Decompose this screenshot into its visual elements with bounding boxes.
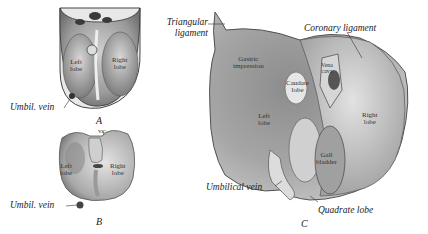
panel-b-letter: B — [96, 217, 102, 227]
panel-a-letter: A — [96, 116, 102, 126]
caudate-line2: lobe — [286, 87, 309, 94]
gall-bladder-label: Gall bladder — [316, 152, 337, 166]
panel-c-letter: C — [301, 219, 308, 229]
panel-b-umbil-vein-label: Umbil. vein — [10, 201, 54, 211]
panel-c-right-lobe-label: Right lobe — [362, 112, 378, 126]
caudate-lobe-label: Caudate lobe — [286, 80, 309, 94]
gastric-impression-label: Gastric impression — [233, 56, 264, 70]
gastric-line2: impression — [233, 63, 264, 70]
panel-a-right-lobe-line2: lobe — [112, 64, 128, 71]
umbilical-vein-label: Umbilical vein — [206, 183, 262, 193]
liver-figure: Left lobe Right lobe Umbil. vein A v.c. … — [0, 0, 428, 234]
triangular-line2: ligament — [152, 29, 208, 39]
gall-line2: bladder — [316, 159, 337, 166]
vena-cava-label: Vena cava — [321, 62, 333, 74]
vena-line2: cava — [321, 68, 333, 74]
triangular-line1: Triangular — [152, 18, 208, 28]
panel-a-left-lobe-line2: lobe — [70, 66, 82, 73]
panel-b-left-lobe-line2: lobe — [60, 170, 72, 177]
panel-a-left-lobe-label: Left lobe — [70, 59, 82, 73]
coronary-ligament-label: Coronary ligament — [304, 24, 376, 34]
panel-c-left-lobe-line2: lobe — [258, 120, 270, 127]
panel-b-vc-label: v.c. — [98, 128, 108, 135]
panel-a-right-lobe-label: Right lobe — [112, 57, 128, 71]
panel-a-umbil-vein-label: Umbil. vein — [10, 103, 54, 113]
panel-c-left-lobe-label: Left lobe — [258, 113, 270, 127]
panel-b-right-lobe-line2: lobe — [110, 170, 126, 177]
panel-b-right-lobe-label: Right lobe — [110, 163, 126, 177]
triangular-ligament-label: Triangular ligament — [152, 18, 208, 38]
quadrate-lobe-label: Quadrate lobe — [318, 206, 373, 216]
panel-c-drawing — [210, 12, 408, 200]
panel-c-right-lobe-line2: lobe — [362, 119, 378, 126]
panel-b-left-lobe-label: Left lobe — [60, 163, 72, 177]
